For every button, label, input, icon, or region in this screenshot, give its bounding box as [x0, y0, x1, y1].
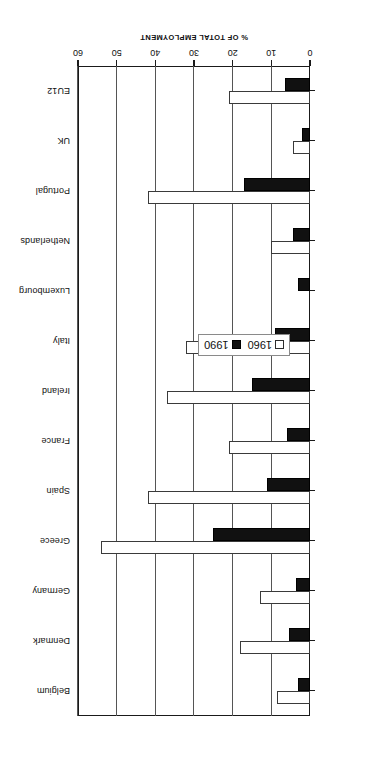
- category-label-netherlands: Netherlands: [20, 236, 70, 246]
- bar-france-1990: [287, 428, 310, 441]
- chart-legend: 1960 1990: [198, 334, 290, 356]
- category-tick-denmark: [310, 640, 315, 641]
- category-label-germany: Germany: [32, 586, 70, 596]
- category-tick-netherlands: [310, 240, 315, 241]
- value-tick-label-30: 30: [189, 48, 199, 58]
- legend-label-1960: 1960: [248, 339, 272, 351]
- category-tick-france: [310, 440, 315, 441]
- legend-label-1990: 1990: [204, 339, 228, 351]
- category-tick-ireland: [310, 390, 315, 391]
- value-tick-0: [309, 60, 310, 66]
- value-tick-20: [232, 60, 233, 66]
- bar-eu12-1960: [229, 91, 310, 104]
- category-tick-germany: [310, 590, 315, 591]
- gridline-50: [116, 66, 117, 716]
- category-label-france: France: [41, 436, 70, 446]
- bar-uk-1990: [302, 128, 310, 141]
- bar-france-1960: [229, 441, 310, 454]
- category-tick-uk: [310, 140, 315, 141]
- bar-spain-1960: [148, 491, 310, 504]
- category-label-ireland: Ireland: [42, 386, 70, 396]
- bar-portugal-1960: [148, 191, 310, 204]
- bar-netherlands-1990: [293, 228, 310, 241]
- bar-denmark-1960: [240, 641, 310, 654]
- category-label-eu12: EU12: [47, 86, 70, 96]
- bar-greece-1960: [101, 541, 310, 554]
- gridline-40: [155, 66, 156, 716]
- category-tick-eu12: [310, 90, 315, 91]
- legend-entry-1960: 1960: [248, 339, 284, 351]
- bar-ireland-1990: [252, 378, 310, 391]
- bar-chart-figure: BelgiumDenmarkGermanyGreeceSpainFranceIr…: [0, 0, 386, 764]
- value-tick-label-20: 20: [228, 48, 238, 58]
- category-tick-italy: [310, 340, 315, 341]
- bar-germany-1960: [260, 591, 310, 604]
- category-label-portugal: Portugal: [36, 186, 70, 196]
- open-square-swatch-icon: [275, 341, 284, 350]
- value-axis-title: % OF TOTAL EMPLOYMENT: [78, 33, 310, 42]
- bar-belgium-1960: [277, 691, 310, 704]
- value-tick-label-60: 60: [73, 48, 83, 58]
- bar-luxembourg-1990: [298, 278, 310, 291]
- bar-netherlands-1960: [271, 241, 310, 254]
- gridline-60: [78, 66, 79, 716]
- category-label-greece: Greece: [40, 536, 70, 546]
- bar-denmark-1990: [289, 628, 310, 641]
- category-tick-belgium: [310, 690, 315, 691]
- value-tick-label-0: 0: [307, 48, 312, 58]
- figure-rotation-wrapper: BelgiumDenmarkGermanyGreeceSpainFranceIr…: [0, 0, 386, 764]
- category-label-italy: Italy: [53, 336, 70, 346]
- bar-belgium-1990: [298, 678, 310, 691]
- bar-greece-1990: [213, 528, 310, 541]
- value-tick-label-40: 40: [150, 48, 160, 58]
- bar-uk-1960: [293, 141, 310, 154]
- category-label-belgium: Belgium: [37, 686, 70, 696]
- bar-ireland-1960: [167, 391, 310, 404]
- legend-entry-1990: 1990: [204, 339, 240, 351]
- bar-spain-1990: [267, 478, 310, 491]
- category-tick-spain: [310, 490, 315, 491]
- category-tick-portugal: [310, 190, 315, 191]
- category-label-luxembourg: Luxembourg: [19, 286, 70, 296]
- value-tick-label-50: 50: [112, 48, 122, 58]
- value-tick-40: [155, 60, 156, 66]
- category-tick-greece: [310, 540, 315, 541]
- value-tick-30: [193, 60, 194, 66]
- value-tick-50: [116, 60, 117, 66]
- category-label-denmark: Denmark: [33, 636, 70, 646]
- bar-portugal-1990: [244, 178, 310, 191]
- value-tick-60: [77, 60, 78, 66]
- bar-germany-1990: [296, 578, 310, 591]
- bar-eu12-1990: [285, 78, 310, 91]
- filled-square-swatch-icon: [232, 341, 241, 350]
- category-label-spain: Spain: [46, 486, 70, 496]
- category-label-uk: UK: [57, 136, 70, 146]
- value-tick-label-10: 10: [266, 48, 276, 58]
- category-tick-luxembourg: [310, 290, 315, 291]
- value-tick-10: [271, 60, 272, 66]
